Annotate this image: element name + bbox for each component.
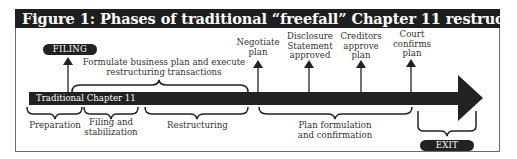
milestone-arrow-icon bbox=[253, 60, 263, 92]
timeline-diagram bbox=[0, 0, 517, 159]
phase-line: Preparation bbox=[24, 121, 86, 131]
milestone-line: approved bbox=[282, 51, 338, 61]
filing-badge: FILING bbox=[43, 44, 97, 55]
top-brace-icon bbox=[72, 80, 248, 92]
timeline-label: Traditional Chapter 11 bbox=[36, 92, 136, 104]
milestone-court-confirms: Court confirms plan bbox=[386, 30, 438, 59]
preparation-brace-icon bbox=[27, 107, 82, 119]
phase-line: Restructuring bbox=[160, 121, 235, 131]
phase-line: and confirmation bbox=[290, 131, 380, 141]
top-span-line2: restructuring transactions bbox=[78, 68, 250, 78]
milestone-creditors-approve: Creditors approve plan bbox=[335, 32, 387, 61]
milestone-disclosure-approved: Disclosure Statement approved bbox=[282, 32, 338, 61]
milestone-arrow-icon bbox=[304, 60, 314, 92]
top-span-label: Formulate business plan and execute rest… bbox=[78, 58, 250, 77]
plan-formulation-brace-icon bbox=[259, 107, 412, 119]
restructuring-brace-icon bbox=[145, 107, 248, 119]
phase-line: stabilization bbox=[82, 128, 140, 138]
phase-preparation: Preparation bbox=[24, 121, 86, 131]
milestone-line: plan bbox=[335, 51, 387, 61]
milestone-arrow-icon bbox=[406, 59, 416, 92]
phase-plan-formulation: Plan formulation and confirmation bbox=[290, 121, 380, 140]
exit-brace-icon bbox=[418, 111, 476, 136]
phase-filing-stabilization: Filing and stabilization bbox=[82, 118, 140, 137]
timeline-arrowhead bbox=[458, 75, 483, 121]
phase-restructuring: Restructuring bbox=[160, 121, 235, 131]
milestone-line: plan bbox=[386, 49, 438, 59]
filing-arrow-icon bbox=[63, 57, 73, 92]
milestone-line: plan bbox=[232, 48, 284, 58]
exit-badge: EXIT bbox=[420, 140, 474, 151]
milestone-arrow-icon bbox=[356, 60, 366, 92]
milestone-negotiate-plan: Negotiate plan bbox=[232, 38, 284, 57]
